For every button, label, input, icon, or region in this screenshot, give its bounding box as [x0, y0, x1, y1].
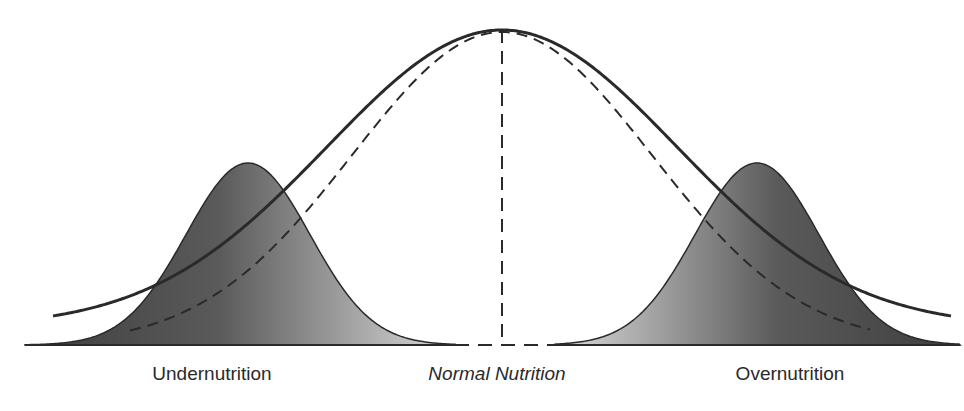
overnutrition-label: Overnutrition — [736, 363, 845, 385]
nutrition-distribution-diagram — [0, 0, 964, 411]
normal-nutrition-label: Normal Nutrition — [428, 363, 565, 385]
undernutrition-label: Undernutrition — [152, 363, 271, 385]
overnutrition-bell-curve — [555, 163, 960, 345]
undernutrition-bell-curve — [25, 163, 455, 345]
